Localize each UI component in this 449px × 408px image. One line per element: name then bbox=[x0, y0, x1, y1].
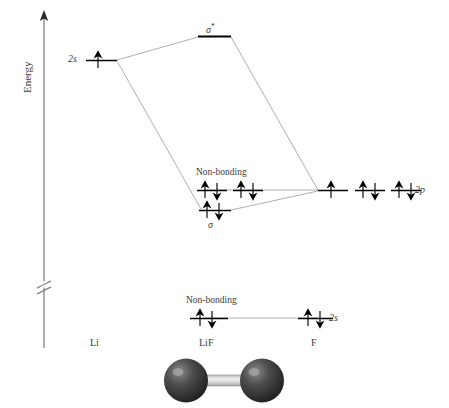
electron-arrows bbox=[95, 52, 414, 328]
label-nonbonding-lower: Non-bonding bbox=[186, 296, 237, 306]
energy-axis-label: Energy bbox=[22, 61, 33, 93]
column-label-li: Li bbox=[90, 338, 99, 348]
correlation-lines bbox=[117, 37, 318, 318]
sigma-star-asterisk: * bbox=[211, 22, 215, 31]
energy-axis bbox=[37, 10, 51, 348]
label-nonbonding-upper: Non-bonding bbox=[196, 168, 247, 178]
column-label-f: F bbox=[311, 338, 317, 348]
orbital-label-f-2s: 2s bbox=[329, 313, 338, 323]
orbital-label-sigma: σ bbox=[208, 220, 213, 230]
column-label-lif: LiF bbox=[199, 338, 213, 348]
mo-diagram-figure: Energy 2s σ* Non-bonding σ 2p Non-bondin… bbox=[0, 0, 449, 408]
atom-sphere-right bbox=[240, 359, 284, 403]
atom-sphere-left bbox=[164, 359, 208, 403]
orbital-label-sigma-star: σ* bbox=[206, 23, 215, 35]
orbital-label-f-2p: 2p bbox=[415, 185, 425, 195]
level-lines bbox=[86, 37, 421, 319]
orbital-label-li-2s: 2s bbox=[68, 54, 77, 64]
molecule-model bbox=[164, 359, 284, 403]
